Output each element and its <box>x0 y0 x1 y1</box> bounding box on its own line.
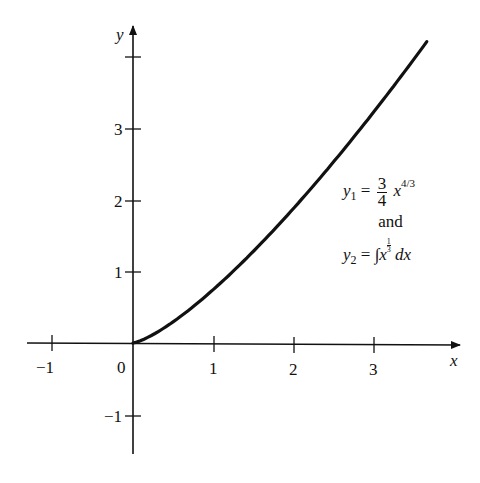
exp-den: 3 <box>387 246 391 253</box>
y-tick-label-3: 3 <box>114 120 123 139</box>
legend-annotation: y1 = 34 x4/3 and y2 = ∫x13 dx <box>343 176 463 266</box>
x-var-2: x <box>379 245 387 264</box>
y-tick-label-neg1: −1 <box>104 407 122 426</box>
eq-sign-2: = <box>361 245 371 264</box>
equation-y1: y1 = 34 x4/3 <box>343 176 463 209</box>
y1-sub: 1 <box>351 189 357 203</box>
frac-den: 4 <box>377 193 388 209</box>
equation-y2: y2 = ∫x13 dx <box>343 238 463 266</box>
origin-label: 0 <box>117 358 126 377</box>
x-var-1: x <box>393 181 401 200</box>
y1-var: y <box>343 181 351 200</box>
eq-sign-1: = <box>361 181 371 200</box>
x-axis-label: x <box>449 351 458 370</box>
y-axis-label: y <box>114 25 124 44</box>
exponent-4-3: 4/3 <box>401 177 415 189</box>
x-tick-label-2: 2 <box>289 360 298 379</box>
y2-var: y <box>343 245 351 264</box>
x-tick-label-neg1: −1 <box>36 358 54 377</box>
x-tick-label-3: 3 <box>369 360 378 379</box>
y2-sub: 2 <box>351 253 357 267</box>
x-axis <box>27 343 460 345</box>
exponent-1-3: 13 <box>387 238 391 253</box>
x-tick-label-1: 1 <box>209 359 218 378</box>
and-text: and <box>343 213 438 230</box>
dx-text: dx <box>395 245 411 264</box>
y-tick-label-1: 1 <box>114 263 123 282</box>
fraction-3-4: 34 <box>377 176 388 209</box>
y-tick-label-2: 2 <box>114 192 123 211</box>
